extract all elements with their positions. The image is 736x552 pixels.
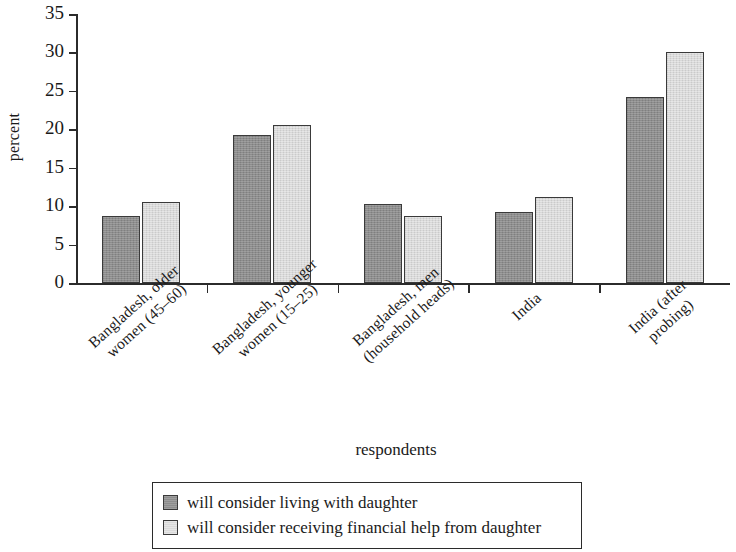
x-axis-divider-tick [338, 283, 340, 293]
bar [535, 197, 573, 283]
x-axis-category-label: India [508, 288, 545, 324]
legend-swatch-icon [163, 495, 178, 510]
x-axis-title-text: respondents [355, 440, 436, 459]
legend-item-label: will consider receiving financial help f… [187, 518, 541, 538]
legend: will consider living with daughter will … [152, 482, 582, 549]
plot-area: 05101520253035 [76, 14, 730, 283]
bar [233, 135, 271, 283]
y-axis-tick: 5 [69, 245, 77, 247]
y-axis-tick: 10 [69, 206, 77, 208]
y-axis-tick: 20 [69, 129, 77, 131]
x-axis-divider-tick [207, 283, 209, 293]
y-axis-tick-label: 35 [45, 3, 64, 23]
legend-swatch-icon [163, 520, 178, 535]
x-axis-divider-tick [468, 283, 470, 293]
bar [666, 52, 704, 283]
legend-item[interactable]: will consider receiving financial help f… [163, 515, 571, 540]
y-axis-tick-label: 25 [45, 80, 64, 100]
y-axis-tick-label: 0 [55, 272, 65, 292]
y-axis-tick: 35 [69, 14, 77, 16]
y-axis-tick-label: 5 [55, 234, 65, 254]
y-axis-line [76, 14, 78, 284]
bar [364, 204, 402, 283]
y-axis-tick-label: 10 [45, 195, 64, 215]
x-axis-title: respondents [0, 440, 736, 460]
y-axis-tick-label: 30 [45, 41, 64, 61]
bar [102, 216, 140, 283]
y-axis-tick-label: 20 [45, 118, 64, 138]
bar [495, 212, 533, 283]
y-axis-tick: 25 [69, 91, 77, 93]
legend-item-label: will consider living with daughter [187, 493, 417, 513]
y-axis-title: percent [5, 87, 23, 187]
bar [626, 97, 664, 283]
bar-chart-figure: percent 05101520253035 Bangladesh, older… [0, 0, 736, 552]
x-axis-divider-tick [599, 283, 601, 293]
legend-item[interactable]: will consider living with daughter [163, 490, 571, 515]
y-axis-tick: 30 [69, 52, 77, 54]
y-axis-tick: 15 [69, 168, 77, 170]
y-axis-tick-label: 15 [45, 157, 64, 177]
y-axis-tick: 0 [69, 283, 77, 285]
